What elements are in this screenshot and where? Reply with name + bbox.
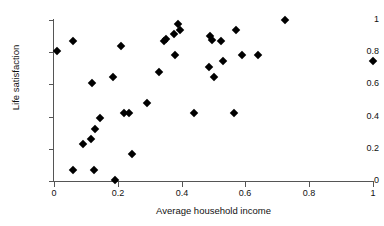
x-tick-mark [373,182,374,187]
x-axis-title: Average household income [54,205,373,216]
data-point [88,79,96,87]
x-tick-mark [182,182,183,187]
data-point [171,51,179,59]
data-point [238,51,246,59]
data-point [232,25,240,33]
data-point [204,62,212,70]
plot-data-area [54,20,373,181]
x-tick-mark [245,182,246,187]
data-point [219,57,227,65]
data-point [53,46,61,54]
data-point [208,36,216,44]
data-point [369,57,377,65]
data-point [90,165,98,173]
x-tick-label: 0.6 [225,189,265,198]
data-point [91,124,99,132]
x-axis-line [53,181,374,182]
x-tick-mark [118,182,119,187]
x-tick-label: 0.4 [162,189,202,198]
x-tick-label: 0.8 [289,189,329,198]
data-point [217,37,225,45]
data-point [128,150,136,158]
data-point [230,109,238,117]
data-point [125,109,133,117]
data-point [117,42,125,50]
x-tick-label: 1 [353,189,384,198]
data-point [109,73,117,81]
data-point [78,140,86,148]
data-point [69,165,77,173]
y-axis-title: Life satisfaction [10,3,21,153]
x-tick-label: 0 [34,189,74,198]
data-point [96,114,104,122]
data-point [209,73,217,81]
data-point [190,109,198,117]
data-point [69,37,77,45]
data-point [142,99,150,107]
x-tick-mark [309,182,310,187]
data-point [155,67,163,75]
data-point [86,135,94,143]
x-tick-label: 0.2 [98,189,138,198]
x-tick-mark [54,182,55,187]
data-point [254,51,262,59]
data-point [281,16,289,24]
